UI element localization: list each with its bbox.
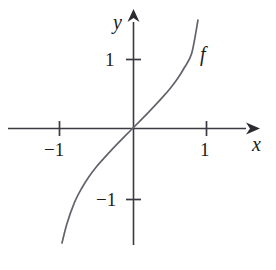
y-axis-arrow-icon	[128, 9, 140, 22]
x-axis-label: x	[252, 134, 261, 154]
function-graph-figure: y x f 1 −1 1 −1	[0, 0, 276, 270]
curve-label-f: f	[200, 44, 206, 64]
y-tick-label-minus-one: −1	[96, 190, 116, 209]
y-tick-label-one: 1	[105, 50, 115, 69]
y-axis-label: y	[113, 12, 122, 32]
graph-canvas	[0, 0, 276, 270]
x-tick-label-one: 1	[200, 140, 210, 159]
x-tick-label-minus-one: −1	[44, 140, 64, 159]
function-curve-f	[62, 20, 198, 243]
